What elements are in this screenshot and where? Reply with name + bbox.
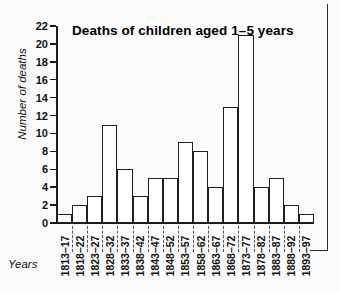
bar bbox=[208, 187, 223, 223]
bar bbox=[163, 178, 178, 223]
x-axis-tick-label: 1888–92 bbox=[285, 236, 297, 277]
bar bbox=[284, 205, 299, 223]
y-axis-tick-label: 20 bbox=[6, 39, 48, 49]
x-axis-tick-label: 1863–67 bbox=[210, 236, 222, 277]
y-axis-tick-labels: 0246810121416182022 bbox=[0, 0, 48, 292]
bar bbox=[223, 107, 238, 223]
x-tick-separator bbox=[193, 226, 194, 252]
x-tick-separator bbox=[72, 226, 73, 252]
x-axis-tick-label: 1893–97 bbox=[300, 236, 312, 277]
plot-area bbox=[57, 26, 314, 223]
y-axis-tick bbox=[50, 186, 56, 187]
y-axis-tick-label: 16 bbox=[6, 75, 48, 85]
y-axis-tick bbox=[50, 61, 56, 62]
x-axis-tick-label: 1868–72 bbox=[225, 236, 237, 277]
y-axis-tick bbox=[50, 169, 56, 170]
x-tick-group: 1873–77 bbox=[238, 226, 253, 288]
bar bbox=[117, 169, 132, 223]
x-tick-group: 1883–87 bbox=[269, 226, 284, 288]
bar bbox=[57, 214, 72, 223]
x-axis-title: Years bbox=[8, 258, 37, 270]
x-axis-tick-label: 1878–82 bbox=[255, 236, 267, 277]
x-tick-group: 1878–82 bbox=[254, 226, 269, 288]
x-tick-group: 1868–72 bbox=[223, 226, 238, 288]
bar bbox=[178, 142, 193, 223]
bar bbox=[72, 205, 87, 223]
bar bbox=[193, 151, 208, 223]
x-axis-tick-label: 1858–62 bbox=[195, 236, 207, 277]
x-tick-group: 1888–92 bbox=[284, 226, 299, 288]
y-axis-tick-label: 4 bbox=[6, 182, 48, 192]
y-axis-tick-label: 2 bbox=[6, 200, 48, 210]
x-axis-tick-label: 1828–32 bbox=[104, 236, 116, 277]
bar bbox=[299, 214, 314, 223]
y-axis-tick bbox=[50, 133, 56, 134]
y-axis-tick-label: 18 bbox=[6, 57, 48, 67]
x-axis-tick-label: 1873–77 bbox=[240, 236, 252, 277]
x-tick-group: 1843–47 bbox=[148, 226, 163, 288]
x-axis-tick-label: 1883–87 bbox=[270, 236, 282, 277]
y-axis-tick bbox=[50, 79, 56, 80]
x-axis-tick-label: 1818–22 bbox=[74, 236, 86, 277]
bar bbox=[254, 187, 269, 223]
y-axis-tick bbox=[50, 25, 56, 26]
x-tick-group: 1848–52 bbox=[163, 226, 178, 288]
y-axis-tick bbox=[50, 43, 56, 44]
y-axis-tick-label: 14 bbox=[6, 93, 48, 103]
x-tick-group: 1828–32 bbox=[102, 226, 117, 288]
bar bbox=[238, 35, 253, 223]
x-axis-tick-label: 1813–17 bbox=[59, 236, 71, 277]
x-axis-tick-label: 1833–37 bbox=[119, 236, 131, 277]
bar bbox=[87, 196, 102, 223]
y-axis-tick bbox=[50, 115, 56, 116]
bar bbox=[133, 196, 148, 223]
x-tick-group: 1813–17 bbox=[57, 226, 72, 288]
x-tick-group: 1858–62 bbox=[193, 226, 208, 288]
x-tick-group: 1853–57 bbox=[178, 226, 193, 288]
bar bbox=[269, 178, 284, 223]
x-axis-tick-label: 1848–52 bbox=[164, 236, 176, 277]
y-axis-tick-label: 8 bbox=[6, 146, 48, 156]
y-axis-tick bbox=[50, 151, 56, 152]
x-axis-tick-label: 1823–27 bbox=[89, 236, 101, 277]
frame-border-right bbox=[327, 4, 328, 250]
x-axis-tick-labels: 1813–171818–221823–271828–321833–371838–… bbox=[57, 226, 315, 286]
y-axis-tick-label: 6 bbox=[6, 164, 48, 174]
y-axis-tick-label: 10 bbox=[6, 128, 48, 138]
x-axis-tick-label: 1853–57 bbox=[179, 236, 191, 277]
y-axis-tick-label: 22 bbox=[6, 21, 48, 31]
x-axis-tick-label: 1838–42 bbox=[134, 236, 146, 277]
x-tick-group: 1863–67 bbox=[208, 226, 223, 288]
x-tick-group: 1893–97 bbox=[299, 226, 314, 288]
x-axis-tick-label: 1843–47 bbox=[149, 236, 161, 277]
bar bbox=[148, 178, 163, 223]
y-axis-tick bbox=[50, 204, 56, 205]
y-axis-tick-label: 0 bbox=[6, 218, 48, 228]
y-axis-tick bbox=[50, 222, 56, 223]
x-tick-group: 1838–42 bbox=[133, 226, 148, 288]
x-tick-group: 1823–27 bbox=[87, 226, 102, 288]
figure-canvas: Deaths of children aged 1–5 years Number… bbox=[0, 0, 340, 292]
y-axis-tick bbox=[50, 97, 56, 98]
bar bbox=[102, 125, 117, 224]
y-axis-tick-label: 12 bbox=[6, 111, 48, 121]
x-tick-group: 1833–37 bbox=[117, 226, 132, 288]
x-tick-group: 1818–22 bbox=[72, 226, 87, 288]
